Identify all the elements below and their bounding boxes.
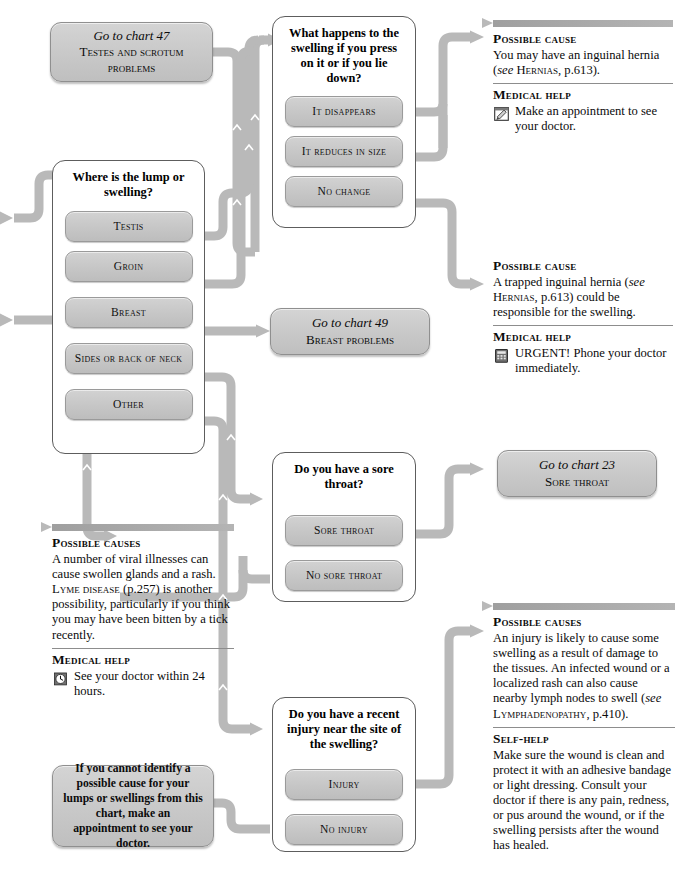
goto-chart-47-line2: Testes and scrotum problems — [59, 44, 204, 76]
goto-chart-23-box[interactable]: Go to chart 23 Sore throat — [497, 450, 657, 497]
panel-injury-help-heading: Self-help — [493, 731, 675, 747]
option-sore-throat-label: Sore throat — [314, 524, 374, 537]
panel-hernia-see: see — [497, 63, 513, 77]
option-no-sore-throat[interactable]: No sore throat — [285, 560, 403, 591]
option-groin-label: Groin — [114, 260, 143, 273]
panel-viral-cause-text: A number of viral illnesses can cause sw… — [52, 552, 234, 643]
panel-divider — [493, 83, 673, 84]
question-sore-throat-title: Do you have a sore throat? — [273, 453, 415, 497]
panel-trapped-cause-text: A trapped inguinal hernia (see Hernias, … — [493, 275, 673, 320]
panel-possible-cause-hernia: Possible cause You may have an inguinal … — [493, 20, 673, 134]
panel-rule-bar — [493, 603, 675, 610]
option-it-disappears[interactable]: It disappears — [285, 96, 403, 127]
clock-icon — [52, 670, 69, 687]
option-no-sore-throat-label: No sore throat — [306, 569, 382, 582]
panel-hernia-help-heading: Medical help — [493, 87, 673, 103]
panel-hernia-ref: Hernias — [513, 63, 558, 77]
panel-injury-cause-text-2: , p.410). — [586, 707, 628, 721]
panel-injury-cause-heading: Possible causes — [493, 614, 675, 630]
panel-trapped-help-text: URGENT! Phone your doctor immediately. — [515, 346, 673, 376]
goto-chart-47-line1: Go to chart 47 — [93, 28, 169, 44]
panel-injury-ref: Lymphadenopathy — [493, 707, 586, 721]
goto-chart-49-line2: Breast problems — [306, 332, 394, 348]
panel-injury-cause-text-1: An injury is likely to cause some swelli… — [493, 631, 670, 705]
goto-chart-47-box[interactable]: Go to chart 47 Testes and scrotum proble… — [50, 22, 213, 82]
panel-trapped-ref: Hernias — [493, 290, 535, 304]
goto-chart-23-line2: Sore throat — [545, 474, 609, 490]
panel-trapped-see: see — [629, 275, 645, 289]
panel-possible-causes-injury: Possible causes An injury is likely to c… — [493, 603, 675, 853]
panel-viral-help-heading: Medical help — [52, 652, 234, 668]
panel-hernia-cause-text-2: , p.613). — [558, 63, 600, 77]
question-recent-injury-box: Do you have a recent injury near the sit… — [272, 697, 416, 852]
option-no-change[interactable]: No change — [285, 176, 403, 207]
option-other-label: Other — [113, 398, 144, 411]
option-injury-label: Injury — [328, 778, 359, 791]
panel-hernia-help-text: Make an appointment to see your doctor. — [515, 104, 673, 134]
panel-divider — [52, 648, 234, 649]
question-sore-throat-box: Do you have a sore throat? Sore throat N… — [272, 452, 416, 602]
question-swelling-press-title: What happens to the swelling if you pres… — [273, 17, 415, 92]
panel-divider — [493, 727, 675, 728]
option-breast[interactable]: Breast — [65, 297, 193, 328]
option-it-reduces-in-size[interactable]: It reduces in size — [285, 136, 403, 167]
question-where-lump-box: Where is the lump or swelling? Testis Gr… — [52, 160, 205, 454]
panel-rule-bar — [52, 524, 234, 531]
option-breast-label: Breast — [111, 306, 146, 319]
option-injury[interactable]: Injury — [285, 769, 403, 800]
option-sore-throat[interactable]: Sore throat — [285, 515, 403, 546]
panel-viral-ref: Lyme disease — [52, 582, 120, 596]
advice-no-cause-text: If you cannot identify a possible cause … — [63, 761, 203, 851]
chart-canvas: .w { fill:none; stroke:#b9b9b9; stroke-w… — [0, 0, 679, 878]
question-swelling-press-box: What happens to the swelling if you pres… — [272, 16, 416, 228]
option-no-injury[interactable]: No injury — [285, 814, 403, 845]
panel-injury-cause-text: An injury is likely to cause some swelli… — [493, 631, 675, 722]
option-sides-or-back-of-neck-label: Sides or back of neck — [75, 352, 182, 365]
question-where-lump-title: Where is the lump or swelling? — [53, 161, 204, 205]
panel-injury-help-text: Make sure the wound is clean and protect… — [493, 748, 675, 854]
panel-trapped-cause-heading: Possible cause — [493, 258, 673, 274]
option-no-injury-label: No injury — [320, 823, 368, 836]
option-other[interactable]: Other — [65, 389, 193, 420]
panel-viral-help-text: See your doctor within 24 hours. — [74, 669, 234, 699]
panel-possible-cause-trapped-hernia: Possible cause A trapped inguinal hernia… — [493, 258, 673, 377]
panel-viral-cause-heading: Possible causes — [52, 535, 234, 551]
panel-hernia-cause-heading: Possible cause — [493, 31, 673, 47]
option-sides-or-back-of-neck[interactable]: Sides or back of neck — [65, 343, 193, 374]
panel-rule-bar — [493, 20, 673, 27]
panel-hernia-cause-text: You may have an inguinal hernia (see Her… — [493, 48, 673, 78]
question-recent-injury-title: Do you have a recent injury near the sit… — [273, 698, 415, 757]
appointment-pad-icon — [493, 105, 510, 122]
option-no-change-label: No change — [317, 185, 370, 198]
option-testis-label: Testis — [113, 220, 143, 233]
panel-trapped-help-heading: Medical help — [493, 329, 673, 345]
option-testis[interactable]: Testis — [65, 211, 193, 242]
panel-trapped-cause-text-1: A trapped inguinal hernia ( — [493, 275, 629, 289]
telephone-icon — [493, 347, 510, 364]
goto-chart-49-line1: Go to chart 49 — [312, 315, 388, 331]
goto-chart-49-box[interactable]: Go to chart 49 Breast problems — [270, 308, 430, 355]
goto-chart-23-line1: Go to chart 23 — [539, 457, 615, 473]
option-it-disappears-label: It disappears — [312, 105, 376, 118]
option-groin[interactable]: Groin — [65, 251, 193, 282]
advice-no-cause-box: If you cannot identify a possible cause … — [52, 765, 214, 847]
panel-injury-see: see — [645, 691, 661, 705]
panel-divider — [493, 325, 673, 326]
option-it-reduces-in-size-label: It reduces in size — [302, 145, 387, 158]
panel-viral-cause-text-1: A number of viral illnesses can cause sw… — [52, 552, 216, 581]
panel-possible-causes-viral: Possible causes A number of viral illnes… — [52, 524, 234, 699]
